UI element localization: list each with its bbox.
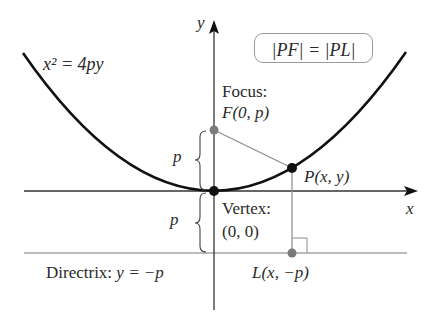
vertex-point <box>209 186 219 196</box>
directrix-equation: y = −p <box>116 263 164 282</box>
distance-label-lower: p <box>170 211 179 228</box>
vertex-title: Vertex: <box>222 200 271 217</box>
x-axis-label: x <box>406 200 414 217</box>
directrix-label: Directrix: y = −p <box>46 264 164 281</box>
condition-text: |PF| = |PL| <box>255 40 372 61</box>
focus-title: Focus: <box>222 83 267 100</box>
point-l <box>288 249 297 258</box>
y-axis-label: y <box>197 14 205 31</box>
focus-coords: F(0, p) <box>222 104 269 121</box>
equation-label: x² = 4py <box>43 55 104 73</box>
distance-label-upper: p <box>173 148 182 165</box>
segment-pf <box>214 130 292 168</box>
brace-upper <box>195 131 206 190</box>
vertex-coords: (0, 0) <box>222 223 259 240</box>
point-p-label: P(x, y) <box>304 168 349 185</box>
focus-point <box>210 126 219 135</box>
point-p <box>287 163 297 173</box>
condition-box: |PF| = |PL| <box>254 33 373 63</box>
brace-lower <box>195 193 206 252</box>
point-l-label: L(x, −p) <box>252 264 309 281</box>
directrix-prefix: Directrix: <box>46 263 116 282</box>
